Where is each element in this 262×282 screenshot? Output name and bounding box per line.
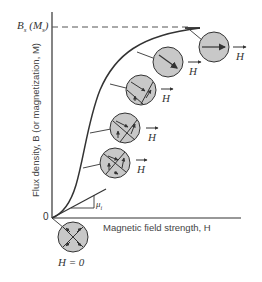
domain-circle-1 xyxy=(100,148,130,178)
domain-circle-h0 xyxy=(58,222,88,252)
field-label-3: H xyxy=(162,92,170,104)
ms-main: (M xyxy=(29,19,42,31)
ms-close: ) xyxy=(45,19,49,31)
magnetization-diagram: Bs (Ms) Flux density, B (or magnetizatio… xyxy=(0,0,262,282)
field-label-5: H xyxy=(236,50,244,62)
bs-main: B xyxy=(17,19,24,31)
y-axis-label: Flux density, B (or magnetization, M) xyxy=(30,43,41,197)
mu-sub: i xyxy=(101,205,103,211)
bs-sub: s xyxy=(24,26,27,34)
leader-line-1 xyxy=(83,164,101,168)
leader-line-3 xyxy=(110,84,126,88)
field-label-1: H xyxy=(137,163,145,175)
domain-circle-saturated xyxy=(199,32,229,62)
field-label-2: H xyxy=(148,131,156,143)
x-axis-label: Magnetic field strength, H xyxy=(103,222,211,233)
domain-circle-4 xyxy=(153,47,183,77)
initial-permeability-label: μi xyxy=(96,199,102,211)
leader-line-4 xyxy=(137,52,153,58)
leader-line-5 xyxy=(190,30,202,40)
saturation-label: Bs (Ms) xyxy=(17,19,48,34)
origin-label: 0 xyxy=(43,211,49,222)
field-label-4: H xyxy=(189,65,197,77)
domain-circle-2 xyxy=(110,113,140,143)
domain-circle-3 xyxy=(126,75,156,105)
leader-line-2 xyxy=(90,129,111,133)
zero-field-label: H = 0 xyxy=(58,256,84,268)
